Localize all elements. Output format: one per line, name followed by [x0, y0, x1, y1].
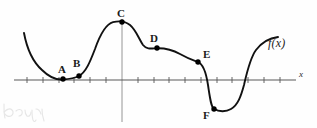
scribble-stroke-2: [16, 110, 22, 117]
scribble-stroke-5: [36, 109, 41, 114]
point-marker-a: [60, 76, 65, 81]
marked-points-group: [60, 19, 216, 111]
point-marker-d: [154, 45, 159, 50]
scribble-stroke-4: [32, 110, 36, 122]
x-axis-label: x: [299, 70, 303, 79]
point-label-c: C: [117, 8, 125, 19]
point-label-e: E: [203, 49, 210, 60]
point-marker-f: [211, 106, 216, 111]
scribble-stroke-1: [4, 109, 13, 116]
function-label: f(x): [268, 37, 285, 49]
point-label-d: D: [150, 33, 158, 44]
pencil-scribble-overlay: [1, 98, 47, 122]
scribble-stroke-3: [25, 110, 31, 116]
scribble-stroke-6: [42, 109, 44, 121]
point-marker-e: [195, 59, 200, 64]
function-graph-figure: [0, 0, 317, 128]
point-marker-b: [76, 73, 81, 78]
point-label-a: A: [58, 64, 66, 75]
point-marker-c: [119, 19, 124, 24]
point-label-b: B: [73, 58, 80, 69]
point-label-f: F: [203, 110, 210, 121]
